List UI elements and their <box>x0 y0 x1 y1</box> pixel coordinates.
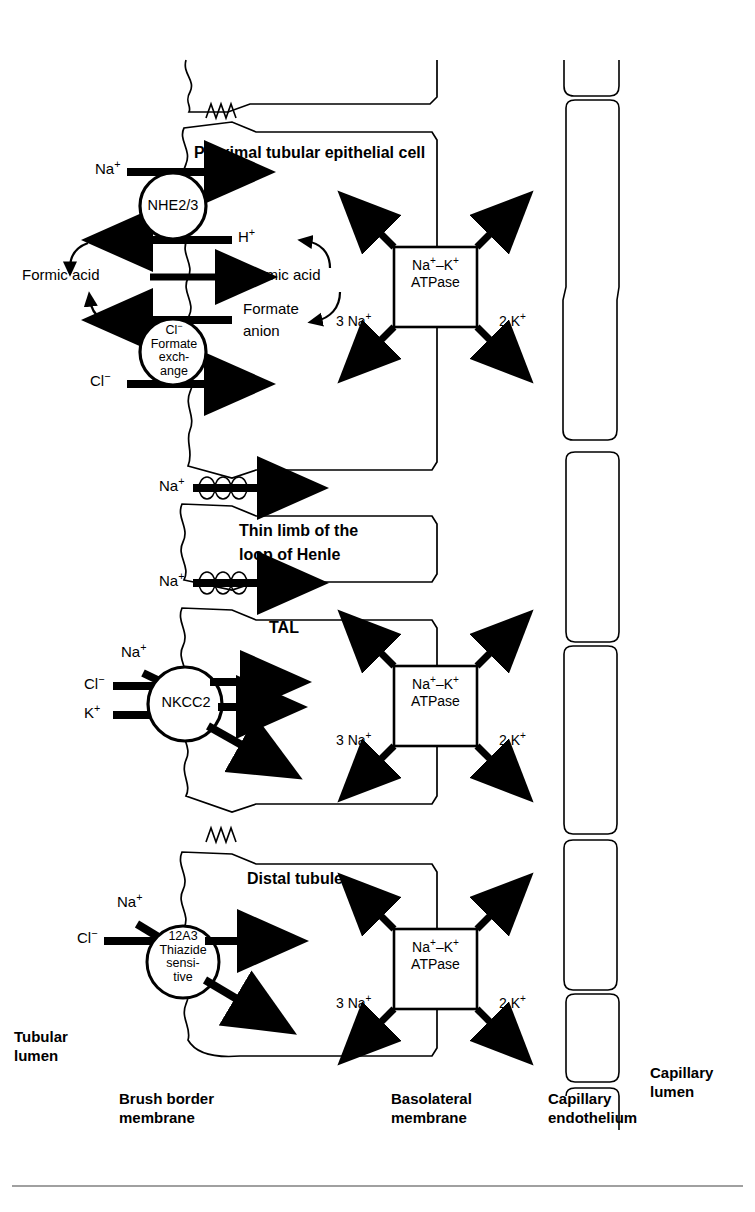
carrier-label-thiazide: 12A3 Thiazide sensi- tive <box>152 930 214 984</box>
exchanger-line4: ange <box>160 364 188 378</box>
tight-junction-2 <box>206 828 236 842</box>
pump-atpase: ATPase <box>411 693 460 709</box>
na-charge: + <box>140 641 146 653</box>
cl-text: Cl <box>90 372 104 389</box>
label-na-influx-tal: Na+ <box>121 643 147 660</box>
pump-tal-2k-label: 2 K+ <box>499 732 526 748</box>
na-text: Na <box>95 160 114 177</box>
basolateral-line2: membrane <box>391 1109 467 1126</box>
pump-tal-3na-label: 3 Na+ <box>336 732 371 748</box>
h-text: H <box>238 228 249 245</box>
tubular-lumen-line1: Tubular <box>14 1028 68 1045</box>
capillary-lumen-line1: Capillary <box>650 1064 713 1081</box>
pump-dash-k: –K <box>436 257 453 273</box>
na-charge: + <box>178 570 184 582</box>
pump-proximal-3na-label: 3 Na+ <box>336 313 371 329</box>
footer-basolateral-membrane: Basolateral membrane <box>391 1090 472 1128</box>
cl-text: Cl <box>84 675 98 692</box>
pump-proximal-2k-label: 2 K+ <box>499 313 526 329</box>
pump-distal-3na-label: 3 Na+ <box>336 995 371 1011</box>
cl-text: Cl <box>77 929 91 946</box>
pump-na: Na <box>412 257 430 273</box>
label-na-paracellular-1: Na+ <box>159 477 185 494</box>
thiazide-line3: sensi- <box>166 956 199 970</box>
na-charge: + <box>178 475 184 487</box>
three-na-charge: + <box>366 311 372 322</box>
diagram-canvas: Proximal tubular epithelial cell Thin li… <box>0 0 755 1212</box>
three-na-text: 3 Na <box>336 313 366 329</box>
three-na-charge: + <box>366 730 372 741</box>
capillary-lumen-line2: lumen <box>650 1083 694 1100</box>
capillary-cell <box>564 646 617 834</box>
two-k-charge: + <box>520 311 526 322</box>
na-text: Na <box>117 893 136 910</box>
capillary-cell <box>564 840 617 990</box>
section-title-tal: TAL <box>269 619 299 637</box>
pump-dash-k: –K <box>436 676 453 692</box>
basolateral-line1: Basolateral <box>391 1090 472 1107</box>
k-text: K <box>84 704 94 721</box>
three-na-text: 3 Na <box>336 995 366 1011</box>
na-charge: + <box>136 891 142 903</box>
label-na-paracellular-2: Na+ <box>159 572 185 589</box>
footer-brush-border-membrane: Brush border membrane <box>119 1090 214 1128</box>
carrier-label-nkcc2: NKCC2 <box>150 695 222 711</box>
na-text: Na <box>121 643 140 660</box>
pump-na: Na <box>412 939 430 955</box>
formate-to-formic-acid-curve <box>90 300 131 323</box>
two-k-text: 2 K <box>499 732 520 748</box>
thiazide-line4: tive <box>173 970 192 984</box>
three-na-text: 3 Na <box>336 732 366 748</box>
cl-charge: − <box>104 370 110 382</box>
footer-capillary-endothelium: Capillary endothelium <box>548 1090 637 1128</box>
pump-atpase: ATPase <box>411 274 460 290</box>
section-title-proximal: Proximal tubular epithelial cell <box>194 144 425 162</box>
pump-distal-2k-label: 2 K+ <box>499 995 526 1011</box>
cl-charge: − <box>91 927 97 939</box>
tubular-lumen-line2: lumen <box>14 1047 58 1064</box>
h-to-formic-acid-curve <box>70 243 88 268</box>
exchanger-line3: exch- <box>159 350 190 364</box>
section-title-thin-limb-line2: loop of Henle <box>239 546 340 564</box>
label-na-influx-proximal: Na+ <box>95 160 121 177</box>
label-cl-influx-proximal: Cl− <box>90 372 110 389</box>
label-h-efflux: H+ <box>238 228 255 245</box>
h-charge: + <box>249 226 255 238</box>
pump-k-charge: + <box>453 937 459 948</box>
two-k-charge: + <box>520 993 526 1004</box>
thiazide-line1: 12A3 <box>168 929 197 943</box>
section-title-distal: Distal tubule <box>247 870 343 888</box>
label-na-influx-distal: Na+ <box>117 893 143 910</box>
two-k-text: 2 K <box>499 995 520 1011</box>
brush-border-line1: Brush border <box>119 1090 214 1107</box>
exchanger-line2: Formate <box>151 337 198 351</box>
na-text: Na <box>159 572 178 589</box>
brush-border-line2: membrane <box>119 1109 195 1126</box>
label-formate-anion-line2: anion <box>243 322 280 339</box>
capillary-endothelium-line1: Capillary <box>548 1090 611 1107</box>
pump-label-tal: Na+–K+ ATPase <box>394 676 477 710</box>
label-formate-anion-line1: Formate <box>243 300 299 317</box>
cell-outline-top-partial <box>185 60 437 112</box>
thiazide-line2: Thiazide <box>159 943 206 957</box>
two-k-text: 2 K <box>499 313 520 329</box>
label-cl-influx-tal: Cl− <box>84 675 104 692</box>
label-k-influx-tal: K+ <box>84 704 100 721</box>
cl-charge: − <box>98 673 104 685</box>
footer-capillary-lumen: Capillary lumen <box>650 1064 713 1102</box>
na-charge: + <box>114 158 120 170</box>
pump-atpase: ATPase <box>411 956 460 972</box>
footer-tubular-lumen: Tubular lumen <box>14 1028 68 1066</box>
pump-k-charge: + <box>453 674 459 685</box>
nephron-transport-svg <box>0 0 755 1212</box>
pump-label-proximal: Na+–K+ ATPase <box>394 257 477 291</box>
three-na-charge: + <box>366 993 372 1004</box>
k-charge: + <box>94 702 100 714</box>
pump-label-distal: Na+–K+ ATPase <box>394 939 477 973</box>
section-title-thin-limb-line1: Thin limb of the <box>239 522 358 540</box>
label-formic-acid-cell: Formic acid <box>243 266 321 283</box>
capillary-cell <box>563 100 619 440</box>
carrier-label-cl-formate: Cl− Formate exch- ange <box>148 324 200 378</box>
label-cl-influx-distal: Cl− <box>77 929 97 946</box>
pump-k-charge: + <box>453 255 459 266</box>
